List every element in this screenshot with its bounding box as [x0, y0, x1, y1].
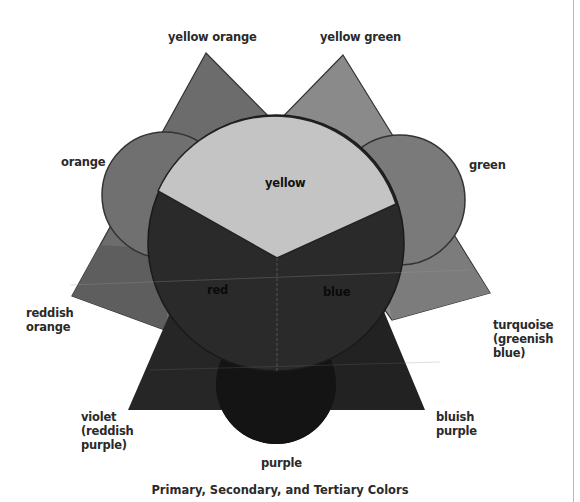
- color-wheel-diagram: yellow orange yellow green orange green …: [0, 0, 580, 502]
- figure-caption: Primary, Secondary, and Tertiary Colors: [0, 483, 560, 497]
- label-violet: violet (reddish purple): [81, 410, 134, 452]
- label-orange: orange: [61, 155, 105, 169]
- label-yellow-green: yellow green: [320, 30, 401, 44]
- label-turquoise: turquoise (greenish blue): [493, 318, 553, 360]
- label-red: red: [207, 283, 228, 297]
- label-yellow-orange: yellow orange: [168, 30, 257, 44]
- label-green: green: [469, 158, 506, 172]
- label-bluish-purple: bluish purple: [436, 410, 477, 438]
- label-reddish-orange: reddish orange: [26, 306, 74, 334]
- label-blue: blue: [323, 285, 350, 299]
- label-yellow: yellow: [265, 176, 306, 190]
- purple-lower-half: [216, 384, 336, 444]
- page-edge-line: [573, 0, 574, 502]
- label-purple: purple: [261, 456, 302, 470]
